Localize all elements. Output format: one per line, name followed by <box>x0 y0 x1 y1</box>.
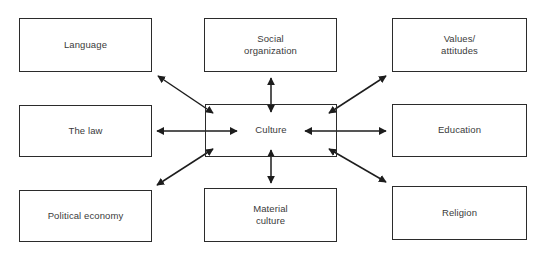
node-language[interactable]: Language <box>19 18 152 72</box>
node-values-attitudes-label: Values/ attitudes <box>437 33 482 58</box>
conn-values-attitudes <box>329 76 386 113</box>
conn-religion <box>329 149 386 182</box>
node-social-organization-label: Social organization <box>240 33 301 58</box>
node-political-economy[interactable]: Political economy <box>19 190 152 242</box>
node-education-label: Education <box>434 124 485 137</box>
node-values-attitudes[interactable]: Values/ attitudes <box>392 18 527 72</box>
node-religion-label: Religion <box>438 207 481 220</box>
node-language-label: Language <box>60 39 111 52</box>
node-culture-label: Culture <box>250 123 291 138</box>
node-the-law-label: The law <box>65 125 107 138</box>
node-education[interactable]: Education <box>392 104 527 157</box>
node-material-culture[interactable]: Material culture <box>204 188 337 242</box>
node-material-culture-label: Material culture <box>249 203 292 228</box>
node-religion[interactable]: Religion <box>392 186 527 240</box>
culture-diagram: Language Social organization Values/ att… <box>0 0 547 254</box>
node-culture-center[interactable]: Culture <box>205 104 337 157</box>
node-the-law[interactable]: The law <box>19 105 152 157</box>
node-political-economy-label: Political economy <box>44 210 128 223</box>
node-social-organization[interactable]: Social organization <box>204 18 337 72</box>
